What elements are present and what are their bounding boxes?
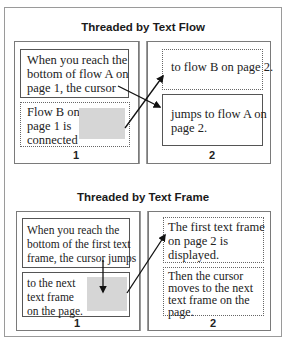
arrow-flow-b-to-page2: [125, 76, 163, 128]
arrow-page1-to-page2-frame: [127, 235, 165, 293]
flow-arrows: [0, 0, 286, 346]
